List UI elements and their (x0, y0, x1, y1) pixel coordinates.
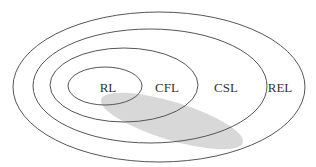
label-rel: REL (268, 80, 293, 95)
label-rl: RL (100, 80, 117, 95)
nested-language-classes-diagram: REL CSL CFL RL (0, 0, 316, 167)
label-csl: CSL (214, 80, 238, 95)
diagram-svg: REL CSL CFL RL (0, 0, 316, 167)
label-cfl: CFL (155, 80, 179, 95)
